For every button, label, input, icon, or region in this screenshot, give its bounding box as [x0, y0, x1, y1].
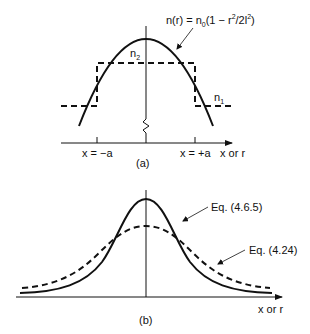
formula-mid2: /2l — [236, 14, 248, 26]
eq-4-24-pointer — [218, 250, 245, 264]
n1-label: n1 — [214, 91, 224, 103]
panel-a-y-axis — [143, 26, 149, 143]
formula-pointer-arrow — [177, 28, 193, 49]
formula-lhs: n(r) = n — [166, 14, 202, 26]
n1-sub: 1 — [220, 98, 224, 105]
tick-minus-a-label: x = −a — [82, 147, 113, 159]
panel-b-axis-label: x or r — [258, 303, 283, 315]
formula-mid: (1 − r — [206, 14, 232, 26]
eq-4-6-5-label: Eq. (4.6.5) — [211, 201, 262, 213]
panel-a — [61, 26, 232, 143]
formula-end: ) — [251, 14, 255, 26]
n2-sub: 2 — [136, 54, 140, 61]
panel-a-axis-label: x or r — [220, 147, 245, 159]
figure-canvas — [0, 0, 310, 334]
eq-4-24-label: Eq. (4.24) — [249, 244, 297, 256]
tick-plus-a-label: x = +a — [180, 147, 211, 159]
eq-4-6-5-pointer — [183, 207, 208, 221]
n2-label: n2 — [130, 47, 140, 59]
panel-a-caption: (a) — [136, 157, 149, 169]
parabolic-formula-label: n(r) = n0(1 − r2/2l2) — [166, 14, 255, 26]
panel-b-caption: (b) — [139, 314, 152, 326]
